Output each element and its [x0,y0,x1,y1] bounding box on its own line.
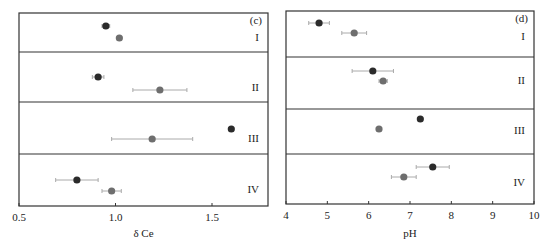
x-tick-label: 10 [529,209,541,221]
data-point-grey [380,77,387,84]
panel-c: 0.51.01.5δ Ce(c)IIIIIIIV [12,13,268,239]
data-point-dark [73,176,80,183]
data-point-grey [116,34,123,41]
x-tick-label: 7 [407,209,413,221]
data-point-grey [149,135,156,142]
x-tick-label: 4 [283,209,289,221]
data-point-grey [400,173,407,180]
data-point-grey [351,29,358,36]
plot-frame [19,13,268,206]
x-tick-label: 9 [490,209,496,221]
data-point-dark [417,115,424,122]
data-point-dark [102,22,109,29]
group-label: IV [247,183,259,195]
group-label: III [248,132,259,144]
x-tick-label: 1.0 [109,211,123,223]
data-point-grey [108,187,115,194]
x-axis-label: pH [403,227,417,239]
plot-frame [286,11,534,204]
data-point-dark [429,163,436,170]
group-label: IV [513,176,525,188]
panel-label: (d) [515,12,528,25]
group-label: I [521,30,525,42]
x-tick-label: 0.5 [12,211,26,223]
data-point-grey [156,86,163,93]
x-tick-label: 1.5 [205,211,219,223]
data-point-grey [375,125,382,132]
x-axis-label: δ Ce [133,227,153,239]
data-point-dark [95,73,102,80]
data-point-dark [369,67,376,74]
group-label: II [518,74,526,86]
figure: 0.51.01.5δ Ce(c)IIIIIIIV45678910pH(d)III… [0,0,549,246]
panel-d: 45678910pH(d)IIIIIIIV [283,11,540,239]
data-point-dark [315,19,322,26]
x-tick-label: 6 [366,209,372,221]
group-label: II [252,81,260,93]
data-point-dark [228,125,235,132]
x-tick-label: 8 [449,209,455,221]
panel-label: (c) [250,14,263,27]
x-tick-label: 5 [325,209,331,221]
group-label: I [255,31,259,43]
group-label: III [514,124,525,136]
